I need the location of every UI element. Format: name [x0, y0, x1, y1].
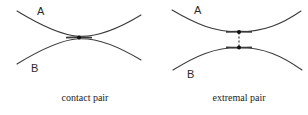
- panel-contact-pair: A B contact pair: [17, 5, 141, 103]
- curve-label-b: B: [31, 62, 38, 74]
- extremal-point-lower: [237, 45, 241, 49]
- panel-caption-contact-pair: contact pair: [62, 92, 110, 103]
- panel-extremal-pair: A B extremal pair: [172, 4, 302, 103]
- panel-caption-extremal-pair: extremal pair: [212, 92, 266, 103]
- curve-a: [17, 11, 141, 36]
- curve-label-a: A: [194, 4, 202, 16]
- diagram-canvas: A B contact pair A B extremal pair: [0, 0, 308, 115]
- curve-b: [17, 39, 141, 64]
- curve-a: [172, 10, 301, 32]
- contact-point: [77, 36, 81, 40]
- extremal-point-upper: [237, 30, 241, 34]
- curve-label-b: B: [187, 68, 194, 80]
- curve-b: [173, 48, 302, 71]
- curve-label-a: A: [37, 5, 45, 17]
- figure-root: A B contact pair A B extremal pair: [0, 0, 308, 115]
